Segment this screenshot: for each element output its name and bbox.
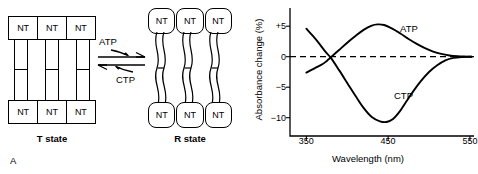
t-state-connector xyxy=(45,40,59,100)
r-state-connectors xyxy=(148,32,232,104)
r-state-structure: NT NT NT xyxy=(148,8,232,128)
plot-axes xyxy=(290,8,474,136)
t-state-connectors xyxy=(8,40,96,100)
equilibrium-arrows xyxy=(97,48,147,74)
wavy-connectors-icon xyxy=(148,32,232,104)
panel-a-diagram: NT NT NT xyxy=(0,0,240,174)
y-tick-label: −10 xyxy=(271,113,286,123)
r-state-subunit: NT xyxy=(176,102,203,128)
r-state-top-row: NT NT NT xyxy=(148,8,232,34)
t-state-connector xyxy=(14,40,28,100)
r-state-bottom-row: NT NT NT xyxy=(148,102,232,128)
t-state-subunit: NT xyxy=(8,100,38,124)
r-state-label: R state xyxy=(148,133,232,144)
r-state-subunit: NT xyxy=(176,8,203,34)
ctp-curve-label: CTP xyxy=(394,90,413,101)
ctp-effector-label: CTP xyxy=(116,74,135,85)
t-state-structure: NT NT NT xyxy=(8,16,96,124)
atp-curve-label: ATP xyxy=(400,23,418,34)
t-state-top-row: NT NT NT xyxy=(8,16,96,40)
r-state-subunit: NT xyxy=(148,102,175,128)
y-tick-label: 0 xyxy=(281,52,286,62)
t-state-subunit: NT xyxy=(37,100,67,124)
x-tick-label: 350 xyxy=(299,136,314,146)
y-tick-label: −5 xyxy=(276,82,286,92)
r-state-subunit: NT xyxy=(148,8,175,34)
x-tick-label: 450 xyxy=(381,136,396,146)
atp-curve xyxy=(306,24,471,72)
ctp-curve xyxy=(306,29,471,123)
connector-crossbar xyxy=(45,69,59,70)
t-state-subunit: NT xyxy=(8,16,38,40)
plot-curves xyxy=(306,24,471,122)
t-state-label: T state xyxy=(8,133,96,144)
x-tick-labels: 350450550 xyxy=(238,136,478,152)
x-axis-title: Wavelength (nm) xyxy=(278,153,458,164)
y-tick-label: +5 xyxy=(276,21,286,31)
connector-crossbar xyxy=(76,69,90,70)
connector-crossbar xyxy=(14,69,28,70)
r-state-subunit: NT xyxy=(205,102,232,128)
atp-effector-label: ATP xyxy=(99,36,117,47)
r-state-subunit: NT xyxy=(205,8,232,34)
t-state-subunit: NT xyxy=(66,16,96,40)
plot-ticks xyxy=(286,26,470,141)
panel-a-letter: A xyxy=(10,155,16,166)
x-tick-label: 550 xyxy=(462,136,477,146)
t-state-subunit: NT xyxy=(37,16,67,40)
panel-b-chart: Absorbance change (%) Wavelength (nm) +5… xyxy=(238,0,478,174)
t-state-connector xyxy=(76,40,90,100)
t-state-subunit: NT xyxy=(66,100,96,124)
t-state-bottom-row: NT NT NT xyxy=(8,100,96,124)
figure-container: NT NT NT xyxy=(0,0,478,174)
equilibrium-arrow-icon xyxy=(97,48,147,74)
